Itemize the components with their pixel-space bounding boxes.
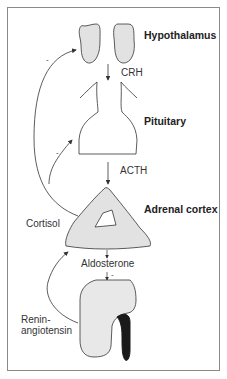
cortisol-pituitary-feedback-arrow xyxy=(49,140,72,184)
label-acth: ACTH xyxy=(120,165,147,177)
adrenal-cortex-shape xyxy=(66,188,151,249)
pituitary-shape xyxy=(79,82,137,154)
label-angiotensin: angiotensin xyxy=(21,325,72,337)
renin-angiotensin-arrow xyxy=(47,252,78,323)
label-aldosterone: Aldosterone xyxy=(81,258,134,270)
label-pituitary: Pituitary xyxy=(144,115,186,127)
cortisol-hypothalamus-feedback-arrow xyxy=(34,50,78,216)
minus-sign-hypothalamus: - xyxy=(46,55,49,64)
label-hypothalamus: Hypothalamus xyxy=(144,29,216,41)
hypothalamus-shape xyxy=(79,24,134,63)
label-renin: Renin- xyxy=(21,314,50,326)
minus-sign-pituitary: - xyxy=(56,148,59,157)
kidney-shape xyxy=(80,280,136,360)
ureter-shape xyxy=(117,314,130,360)
minus-sign-aldosterone: - xyxy=(111,270,114,279)
label-adrenal-cortex: Adrenal cortex xyxy=(144,203,218,215)
label-crh: CRH xyxy=(121,67,143,79)
label-cortisol: Cortisol xyxy=(26,218,60,230)
